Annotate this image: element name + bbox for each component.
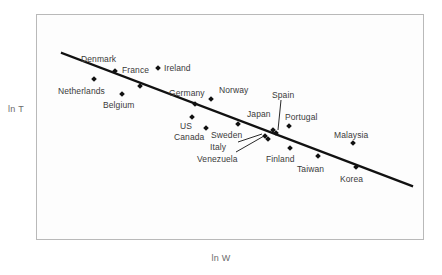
y-axis-label: ln T [8,104,24,114]
data-point-label: Italy [210,143,226,152]
data-point-label: France [122,66,149,75]
data-point-label: Sweden [211,131,242,140]
data-point-label: Norway [219,86,248,95]
x-axis-label: ln W [0,253,442,263]
data-point-label: Germany [169,89,205,98]
data-point-label: Japan [247,110,271,119]
data-point-label: Belgium [103,101,134,110]
data-point-label: Venezuela [197,155,238,164]
data-point-label: US [180,122,192,131]
data-point-label: Portugal [285,113,317,122]
data-point-label: Malaysia [334,131,368,140]
data-point-label: Ireland [164,64,191,73]
scatter-plot-figure: DenmarkFranceIrelandNetherlandsBelgiumGe… [0,0,442,275]
plot-area-frame [36,14,424,240]
data-point-label: Finland [266,155,295,164]
data-point-label: Spain [272,91,294,100]
data-point-label: Taiwan [297,165,324,174]
data-point-label: Canada [174,133,204,142]
data-point-label: Korea [340,175,363,184]
data-point-label: Denmark [81,55,116,64]
data-point-label: Netherlands [58,87,105,96]
